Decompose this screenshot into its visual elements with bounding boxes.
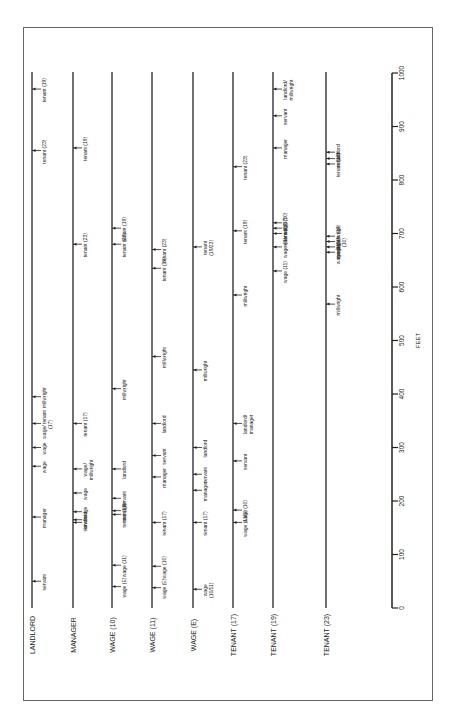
arrow-icon <box>74 521 77 524</box>
arrow-icon <box>194 489 197 492</box>
marker-label: servant <box>161 448 167 465</box>
marker-label: tenant (19) <box>82 136 88 161</box>
arrow-icon <box>194 588 197 591</box>
marker-label: landlord <box>335 144 341 162</box>
arrow-icon <box>194 521 197 524</box>
event-marker: manager <box>152 468 167 488</box>
event-marker: wage (10) <box>152 556 167 579</box>
marker-label: servant <box>282 108 288 125</box>
marker-label: landlord <box>121 461 127 479</box>
event-marker: tenant (23) <box>233 155 248 180</box>
arrow-icon <box>194 473 197 476</box>
event-marker: servant <box>152 448 167 465</box>
arrow-icon <box>153 586 156 589</box>
arrow-icon <box>234 459 237 462</box>
marker-label: wage (E) <box>161 578 167 598</box>
arrow-icon <box>74 510 77 513</box>
event-marker: wage/millwright <box>73 459 94 480</box>
arrow-icon <box>113 564 116 567</box>
event-marker: landlord <box>152 415 167 433</box>
marker-label: servant <box>121 491 127 508</box>
marker-label: tenant (17) <box>82 412 88 437</box>
marker-label: millwright <box>121 379 127 400</box>
arrow-icon <box>234 165 237 168</box>
arrow-icon <box>153 521 156 524</box>
marker-label: millwright <box>288 79 294 100</box>
event-marker: tenant (19) <box>233 219 248 244</box>
event-marker: tenant (19) <box>32 78 47 103</box>
row-wage-10: WAGE (10)wage (E)wage (11)tenant (17)man… <box>109 72 127 653</box>
arrow-icon <box>153 355 156 358</box>
arrow-icon <box>74 518 77 521</box>
marker-label: tenant (23) <box>242 155 248 180</box>
row-label: WAGE (10) <box>109 617 117 653</box>
axis-tick-label: 500 <box>398 335 405 346</box>
arrow-icon <box>113 227 116 230</box>
event-marker: tenant (19) <box>112 217 127 242</box>
marker-label: millwright <box>335 294 341 315</box>
arrow-icon <box>113 467 116 470</box>
arrow-icon <box>194 446 197 449</box>
marker-label: wage (11) <box>121 555 127 577</box>
row-label: LANDLORD <box>29 616 36 654</box>
row-tenant-19: TENANT (19)wage (11)wage (E)tenant (23)t… <box>270 72 294 656</box>
arrow-icon <box>33 465 36 468</box>
event-marker: tenant (19) <box>73 136 88 161</box>
axis-tick-label: 700 <box>398 228 405 239</box>
event-marker: millwright <box>152 347 167 368</box>
marker-label: manager <box>282 139 288 159</box>
marker-label: wage <box>41 461 47 473</box>
event-marker: wage (E) <box>152 578 167 598</box>
arrow-icon <box>234 509 237 512</box>
event-marker: wage(10/11) <box>193 582 214 598</box>
event-marker: tenant (19) <box>326 225 341 250</box>
marker-label: tenant (19) <box>41 78 47 103</box>
event-marker: servant <box>273 108 288 125</box>
arrow-icon <box>327 235 330 238</box>
event-marker: manager <box>273 139 288 159</box>
axis-tick-label: 0 <box>398 606 405 610</box>
marker-label: landlord <box>161 415 167 433</box>
marker-label: manager <box>41 508 47 528</box>
arrow-icon <box>274 88 277 91</box>
arrow-icon <box>33 516 36 519</box>
row-manager: MANAGERservantlandlordwagewagewage/millw… <box>70 72 94 653</box>
marker-label: tenant (17) <box>202 511 208 536</box>
arrow-icon <box>327 151 330 154</box>
arrow-icon <box>274 114 277 117</box>
marker-label: wage (10) <box>282 212 288 235</box>
event-marker: tenant (23) <box>73 233 88 258</box>
event-marker: millwright <box>32 387 47 408</box>
row-label: MANAGER <box>70 617 77 652</box>
row-label: TENANT (23) <box>323 614 331 656</box>
arrow-icon <box>274 269 277 272</box>
event-marker: wage (11) <box>112 555 127 577</box>
arrow-icon <box>74 146 77 149</box>
arrow-icon <box>33 422 36 425</box>
arrow-icon <box>153 248 156 251</box>
event-marker: wage <box>73 488 88 500</box>
event-marker: wage (11) <box>273 261 288 283</box>
event-marker: wage <box>32 461 47 473</box>
marker-label: millwright <box>242 285 248 306</box>
event-marker: landlord/manager <box>233 414 254 434</box>
event-marker: servant <box>32 573 47 590</box>
arrow-icon <box>274 227 277 230</box>
arrow-icon <box>74 243 77 246</box>
arrow-icon <box>153 267 156 270</box>
row-tenant-23: TENANT (23)millwrightwage (11)wage (E)ma… <box>323 72 347 656</box>
row-label: TENANT (17) <box>230 614 238 656</box>
arrow-icon <box>33 88 36 91</box>
diagram-border <box>23 27 432 232</box>
event-marker: wage/ tenant(17) <box>32 410 53 439</box>
event-marker: tenant (23) <box>152 238 167 263</box>
arrow-icon <box>113 243 116 246</box>
marker-label: wage (E) <box>121 577 127 597</box>
arrow-icon <box>194 245 197 248</box>
row-tenant-17: TENANT (17)wage (11/E)wage (10)servantla… <box>230 72 254 656</box>
event-marker: landlord <box>193 439 208 457</box>
marker-label: millwright <box>161 347 167 368</box>
marker-label: wage <box>82 488 88 500</box>
axis-tick-label: 200 <box>398 495 405 506</box>
row-label: WAGE (11) <box>149 617 157 652</box>
